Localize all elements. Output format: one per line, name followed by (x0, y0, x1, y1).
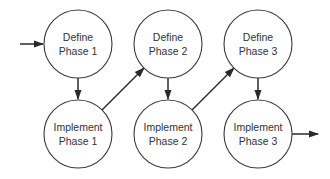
node-circle (224, 10, 292, 78)
node-label-line2: Phase 1 (59, 45, 98, 57)
node-label-line1: Implement (53, 121, 102, 133)
node-implement-phase-2: Implement Phase 2 (134, 100, 202, 168)
node-define-phase-2: Define Phase 2 (134, 10, 202, 78)
node-label-line2: Phase 1 (59, 135, 98, 147)
node-label-line1: Implement (233, 121, 282, 133)
arrow-implement-1-to-define-2 (102, 68, 144, 110)
node-define-phase-3: Define Phase 3 (224, 10, 292, 78)
node-circle (44, 10, 112, 78)
node-label-line1: Define (243, 31, 274, 43)
node-implement-phase-3: Implement Phase 3 (224, 100, 292, 168)
node-define-phase-1: Define Phase 1 (44, 10, 112, 78)
node-label-line2: Phase 2 (149, 135, 188, 147)
node-label-line2: Phase 2 (149, 45, 188, 57)
node-circle (134, 100, 202, 168)
node-circle (44, 100, 112, 168)
node-implement-phase-1: Implement Phase 1 (44, 100, 112, 168)
node-label-line1: Implement (143, 121, 192, 133)
node-label-line1: Define (153, 31, 184, 43)
arrow-implement-2-to-define-3 (192, 68, 234, 110)
node-circle (134, 10, 202, 78)
node-label-line2: Phase 3 (239, 135, 278, 147)
node-label-line2: Phase 3 (239, 45, 278, 57)
node-circle (224, 100, 292, 168)
phased-process-diagram: Define Phase 1 Define Phase 2 Define Pha… (0, 0, 330, 179)
node-label-line1: Define (63, 31, 94, 43)
